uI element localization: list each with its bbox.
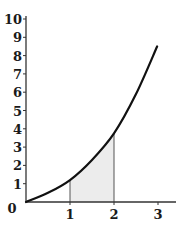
y-tick-label: 9: [13, 30, 22, 45]
y-tick-label: 3: [13, 140, 22, 155]
y-tick-label: 10: [4, 12, 22, 27]
area-under-curve-chart: 012345678910 123: [0, 0, 184, 230]
y-tick-label: 5: [13, 104, 22, 119]
x-tick-label: 3: [153, 207, 162, 222]
y-tick-label: 0: [7, 201, 16, 216]
y-tick-label: 8: [13, 49, 22, 64]
y-tick-label: 1: [13, 177, 22, 192]
y-tick-label: 7: [13, 67, 22, 82]
x-tick-label: 2: [109, 207, 118, 222]
y-tick-label: 2: [13, 158, 22, 173]
y-tick-label: 6: [13, 85, 22, 100]
y-tick-label: 4: [13, 122, 22, 137]
x-tick-label: 1: [65, 207, 74, 222]
y-axis-ticks: 012345678910: [4, 12, 26, 216]
x-axis-ticks: 123: [65, 202, 162, 222]
